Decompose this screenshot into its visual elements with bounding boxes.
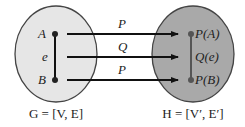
mapping-p-bottom-label: P [117, 62, 126, 77]
vertex-b-label: B [38, 72, 46, 87]
graph-homomorphism-diagram: A e B P(A) Q(e) P(B) P Q P G = [V, E] H … [0, 0, 245, 127]
mapping-p-top-label: P [117, 16, 126, 31]
vertex-p-a-label: P(A) [194, 26, 220, 41]
edge-e-label: e [42, 49, 48, 64]
graph-h-caption: H = [V′, E′] [162, 106, 223, 121]
graph-g-caption: G = [V, E] [29, 106, 83, 121]
graph-h-ellipse [152, 6, 234, 102]
vertex-p-a [188, 31, 194, 37]
diagram-canvas: A e B P(A) Q(e) P(B) P Q P G = [V, E] H … [0, 0, 245, 127]
vertex-p-b [188, 77, 194, 83]
mapping-q-label: Q [118, 39, 128, 54]
vertex-p-b-label: P(B) [194, 72, 220, 87]
vertex-a [52, 31, 58, 37]
vertex-a-label: A [37, 26, 46, 41]
vertex-b [52, 77, 58, 83]
edge-q-e-label: Q(e) [195, 49, 219, 64]
